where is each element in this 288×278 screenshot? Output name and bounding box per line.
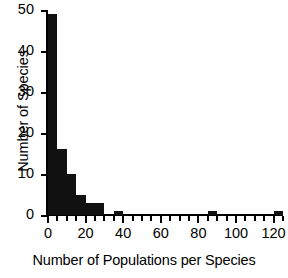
- x-tick: [141, 216, 143, 221]
- x-tick: [169, 216, 171, 221]
- x-tick-label: 0: [44, 225, 52, 241]
- x-tick: [179, 216, 181, 221]
- x-tick: [216, 216, 218, 221]
- y-tick: 40: [41, 51, 47, 53]
- x-tick: [94, 216, 96, 221]
- x-tick: [150, 216, 152, 221]
- x-tick: [282, 216, 284, 221]
- histogram-bar: [76, 195, 85, 216]
- x-tick: [85, 216, 87, 223]
- histogram-bar: [114, 211, 123, 215]
- y-tick-label: 40: [0, 42, 34, 58]
- x-tick: [160, 216, 162, 223]
- x-tick: [235, 216, 237, 223]
- y-tick-label: 0: [0, 206, 34, 222]
- x-tick: [56, 216, 58, 221]
- x-tick: [188, 216, 190, 221]
- histogram-bar: [86, 203, 95, 215]
- y-axis-title: Number of Species: [15, 11, 31, 211]
- x-tick: [47, 216, 49, 223]
- y-tick: 20: [41, 133, 47, 135]
- x-tick-label: 100: [224, 225, 248, 241]
- histogram-bar: [274, 211, 283, 215]
- plot-area: 01020304050 020406080100120: [46, 10, 282, 215]
- y-tick: 30: [41, 92, 47, 94]
- x-tick-label: 20: [78, 225, 94, 241]
- x-tick: [254, 216, 256, 221]
- y-tick-label: 10: [0, 165, 34, 181]
- histogram-bar: [95, 203, 104, 215]
- y-tick-label: 50: [0, 1, 34, 17]
- x-tick: [244, 216, 246, 221]
- x-tick: [113, 216, 115, 221]
- x-tick: [132, 216, 134, 221]
- x-axis-title: Number of Populations per Species: [0, 252, 288, 268]
- x-tick: [207, 216, 209, 221]
- histogram-bar: [57, 149, 66, 215]
- x-tick: [66, 216, 68, 221]
- x-tick: [122, 216, 124, 223]
- histogram-bar: [208, 211, 217, 215]
- x-tick-label: 60: [153, 225, 169, 241]
- x-tick-label: 120: [261, 225, 285, 241]
- x-tick: [75, 216, 77, 221]
- x-tick: [273, 216, 275, 223]
- x-tick-label: 80: [190, 225, 206, 241]
- y-tick: 10: [41, 174, 47, 176]
- y-tick-label: 20: [0, 124, 34, 140]
- x-tick: [263, 216, 265, 221]
- histogram-bar: [67, 174, 76, 215]
- x-tick: [197, 216, 199, 223]
- histogram-figure: Number of Species 01020304050 0204060801…: [0, 0, 288, 278]
- histogram-bar: [48, 14, 57, 215]
- y-tick: 50: [41, 10, 47, 12]
- x-tick-label: 40: [115, 225, 131, 241]
- x-tick: [103, 216, 105, 221]
- y-tick-label: 30: [0, 83, 34, 99]
- bars-group: [48, 10, 283, 215]
- x-tick: [226, 216, 228, 221]
